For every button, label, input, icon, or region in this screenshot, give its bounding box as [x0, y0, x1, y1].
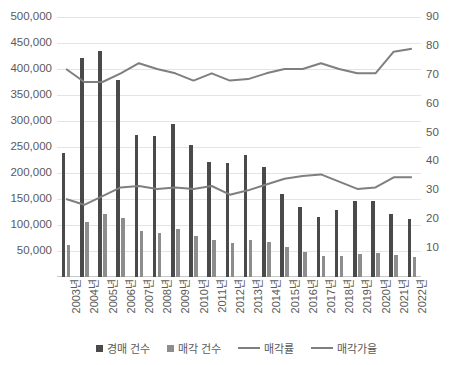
x-axis-tick-label: 2003년 [71, 279, 82, 313]
line-series [66, 49, 412, 82]
y-axis-right: 102030405060708090 [426, 0, 470, 365]
y-axis-left-tick-label: 300,000 [10, 115, 52, 127]
legend-square-swatch-icon [96, 345, 103, 352]
x-axis-tick-label: 2006년 [126, 279, 137, 313]
x-axis-tick-label: 2022년 [417, 279, 428, 313]
x-axis-tick-label: 2017년 [326, 279, 337, 313]
x-axis-tick-label: 2007년 [144, 279, 155, 313]
x-axis-tick-label: 2010년 [199, 279, 210, 313]
legend-square-swatch-icon [167, 345, 174, 352]
legend-item[interactable]: 매각 건수 [167, 340, 221, 356]
legend-line-swatch-icon [311, 347, 333, 349]
y-axis-left-tick-label: 50,000 [17, 245, 52, 257]
y-axis-right-tick-label: 20 [426, 213, 439, 225]
x-axis-tick-label: 2005년 [108, 279, 119, 313]
x-axis-tick-label: 2019년 [362, 279, 373, 313]
x-axis-tick-label: 2011년 [217, 279, 228, 313]
legend-item[interactable]: 매각률 [238, 340, 294, 356]
x-axis-tick-label: 2020년 [381, 279, 392, 313]
y-axis-left-tick-label: 150,000 [10, 193, 52, 205]
legend-line-swatch-icon [238, 347, 260, 349]
legend-item[interactable]: 경매 건수 [96, 340, 150, 356]
x-axis-tick-label: 2016년 [308, 279, 319, 313]
legend-item-label: 경매 건수 [107, 340, 150, 356]
chart-container: 50,000100,000150,000200,000250,000300,00… [0, 0, 473, 365]
x-axis-tick-label: 2021년 [399, 279, 410, 313]
legend-item-label: 매각률 [264, 340, 294, 356]
y-axis-left-tick-label: 500,000 [10, 11, 52, 23]
y-axis-left-tick-label: 450,000 [10, 37, 52, 49]
legend-item-label: 매각 건수 [178, 340, 221, 356]
x-axis-tick-label: 2004년 [89, 279, 100, 313]
y-axis-right-tick-label: 40 [426, 155, 439, 167]
line-series-layer [57, 17, 421, 277]
y-axis-right-tick-label: 10 [426, 242, 439, 254]
y-axis-left: 50,000100,000150,000200,000250,000300,00… [0, 0, 52, 365]
chart-legend: 경매 건수매각 건수매각률매각가율 [0, 340, 473, 356]
y-axis-right-tick-label: 70 [426, 69, 439, 81]
x-axis-tick-label: 2012년 [235, 279, 246, 313]
x-axis-tick-label: 2008년 [162, 279, 173, 313]
plot-area [57, 17, 421, 277]
x-axis-tick-label: 2015년 [290, 279, 301, 313]
y-axis-left-tick-label: 100,000 [10, 219, 52, 231]
x-axis-tick-label: 2018년 [344, 279, 355, 313]
line-series [66, 174, 412, 204]
y-axis-right-tick-label: 50 [426, 127, 439, 139]
y-axis-left-tick-label: 200,000 [10, 167, 52, 179]
x-axis-labels: 2003년2004년2005년2006년2007년2008년2009년2010년… [57, 279, 421, 329]
y-axis-left-tick-label: 350,000 [10, 89, 52, 101]
y-axis-right-tick-label: 90 [426, 11, 439, 23]
y-axis-left-tick-label: 250,000 [10, 141, 52, 153]
legend-item-label: 매각가율 [337, 340, 377, 356]
y-axis-left-tick-label: 400,000 [10, 63, 52, 75]
x-axis-tick-label: 2013년 [253, 279, 264, 313]
y-axis-right-tick-label: 60 [426, 98, 439, 110]
legend-item[interactable]: 매각가율 [311, 340, 377, 356]
y-axis-right-tick-label: 30 [426, 184, 439, 196]
x-axis-tick-label: 2009년 [180, 279, 191, 313]
x-axis-tick-label: 2014년 [271, 279, 282, 313]
y-axis-right-tick-label: 80 [426, 40, 439, 52]
